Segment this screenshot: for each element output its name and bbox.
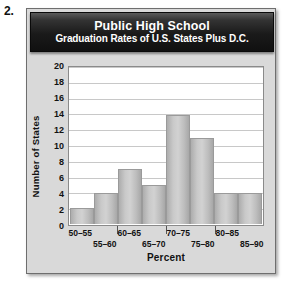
bar [190,138,214,224]
bar [70,208,94,224]
y-axis-tick-label: 2 [59,205,64,215]
x-axis-tick-label: 60–65 [117,228,141,238]
y-axis-title-text: Number of States [31,115,42,197]
x-axis-tick-label: 65–70 [142,239,166,249]
bar [94,193,118,224]
y-axis-tick-label: 4 [59,189,64,199]
figure-container: 2. Public High School Graduation Rates o… [0,0,288,287]
x-axis-tick-label: 55–60 [93,239,117,249]
chart-area: Number of States 02468101214161820 50–55… [30,56,274,271]
y-axis-tick-label: 0 [59,221,64,231]
y-axis-tick-label: 18 [54,77,64,87]
chart-subtitle: Graduation Rates of U.S. States Plus D.C… [55,33,248,45]
bar-series [70,68,262,224]
exercise-number: 2. [4,4,14,18]
y-axis-tick-label: 8 [59,157,64,167]
x-axis-tick-label: 70–75 [166,228,190,238]
chart-panel: Public High School Graduation Rates of U… [26,8,276,274]
bar [142,185,166,224]
x-axis-title: Percent [68,252,264,263]
x-axis-labels: 50–5555–6060–6565–7070–7575–8080–8585–90 [68,228,264,254]
y-axis-tick-label: 20 [54,61,64,71]
x-axis-tick-label: 85–90 [240,239,264,249]
bar [166,115,190,224]
y-axis-title: Number of States [28,96,44,216]
chart-title: Public High School [94,19,210,33]
bar [118,169,142,224]
bar [238,193,262,224]
x-axis-tick-label: 50–55 [68,228,92,238]
y-axis-tick-label: 10 [54,141,64,151]
y-axis-tick-label: 16 [54,93,64,103]
plot-box [68,66,264,226]
y-axis-tick-label: 14 [54,109,64,119]
chart-title-bar: Public High School Graduation Rates of U… [30,12,274,52]
y-axis-tick-label: 12 [54,125,64,135]
plot-wrapper: 02468101214161820 [68,66,264,226]
bar [214,193,238,224]
y-axis-tick-label: 6 [59,173,64,183]
x-axis-tick-label: 80–85 [215,228,239,238]
x-axis-tick-label: 75–80 [191,239,215,249]
